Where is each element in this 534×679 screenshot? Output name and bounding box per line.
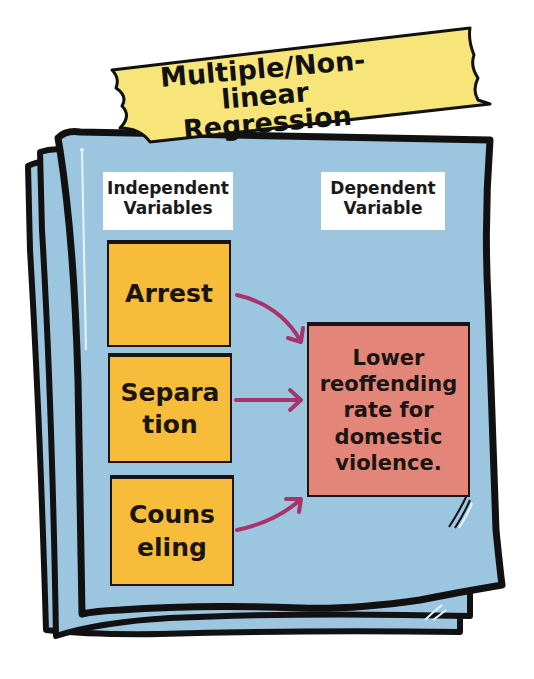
dependent-variable-header: Dependent Variable [321,172,445,230]
outcome-line-3: rate for [320,397,457,423]
note-text-line-1: Separa [121,377,220,410]
outcome-line-2: reoffending [320,371,457,397]
independent-variable-arrest: Arrest [107,240,231,347]
note-text-line-1: Couns [129,499,215,532]
diagram: Multiple/Non-linear Regression Independe… [0,0,534,679]
independent-variable-counseling: Couns eling [110,475,234,586]
header-line-2: Variable [325,198,441,218]
independent-variable-separation: Separa tion [108,353,232,463]
header-line-2: Variables [107,198,229,218]
outcome-line-4: domestic [320,424,457,450]
note-text: Arrest [125,278,213,311]
note-text-line-2: eling [129,532,215,565]
note-text-line-2: tion [121,409,220,442]
outcome-line-5: violence. [320,450,457,476]
header-line-1: Dependent [325,178,441,198]
dependent-variable-outcome: Lower reoffending rate for domestic viol… [307,322,470,497]
header-line-1: Independent [107,178,229,198]
independent-variables-header: Independent Variables [103,172,233,230]
outcome-line-1: Lower [320,345,457,371]
